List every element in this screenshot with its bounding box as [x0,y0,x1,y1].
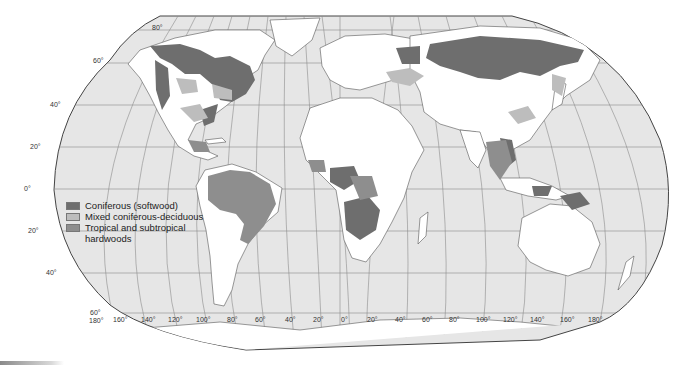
svg-text:80°: 80° [449,316,460,323]
svg-text:120°: 120° [503,316,518,323]
svg-text:20°: 20° [367,316,378,323]
svg-text:180°: 180° [588,316,603,323]
lat-label-20s: 20° [28,227,39,234]
lat-label-80n: 80° [152,24,163,31]
svg-text:180°: 180° [89,317,104,324]
world-forest-map: 80° 60° 40° 20° 0° 20° 40° 60° 180° 160°… [0,0,682,368]
svg-text:0°: 0° [341,316,348,323]
svg-text:80°: 80° [227,316,238,323]
legend-label-continued: hardwoods [66,233,203,244]
map-legend: Coniferous (softwood) Mixed coniferous-d… [66,200,203,244]
lat-label-40n: 40° [50,101,61,108]
lat-label-0: 0° [24,185,31,192]
swatch-tropical [66,224,80,232]
lat-label-60n: 60° [93,57,104,64]
legend-item-coniferous: Coniferous (softwood) [66,200,203,211]
svg-text:100°: 100° [196,316,211,323]
legend-item-mixed: Mixed coniferous-deciduous [66,211,203,222]
swatch-mixed [66,213,80,221]
svg-text:140°: 140° [530,316,545,323]
svg-text:40°: 40° [285,316,296,323]
lat-label-60s: 60° [90,309,101,316]
svg-text:60°: 60° [422,316,433,323]
legend-label: Tropical and subtropical [85,222,186,233]
svg-text:20°: 20° [313,316,324,323]
svg-text:140°: 140° [141,316,156,323]
svg-text:160°: 160° [113,316,128,323]
decorative-fade-bar [0,361,64,365]
lat-label-40s: 40° [46,269,57,276]
svg-text:40°: 40° [395,316,406,323]
legend-label: Mixed coniferous-deciduous [85,211,203,222]
svg-text:100°: 100° [476,316,491,323]
legend-label: Coniferous (softwood) [85,200,178,211]
swatch-coniferous [66,202,80,210]
svg-text:160°: 160° [560,316,575,323]
svg-text:120°: 120° [168,316,183,323]
lat-label-20n: 20° [30,143,41,150]
svg-text:60°: 60° [255,316,266,323]
legend-item-tropical: Tropical and subtropical [66,222,203,233]
